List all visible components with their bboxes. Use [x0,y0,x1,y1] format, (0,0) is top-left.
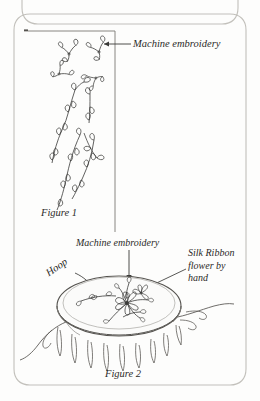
label-silk-ribbon-flower: Silk Ribbon flower by hand [188,247,234,285]
label-machine-embroidery-figure2: Machine embroidery [76,237,159,248]
label-silk-ribbon-line3: hand [188,272,234,285]
vine-trail [56,127,83,210]
arrow-left-icon [104,42,109,47]
page-canvas: Machine embroidery Figure 1 Machine embr… [0,0,260,401]
callout-machine-embroidery-top [104,42,131,47]
vine-sprig [81,70,106,92]
vine-trail [83,133,104,162]
fabric-swatch-outline [24,30,115,232]
vine-trail [84,87,95,123]
vine-sprig [47,58,74,84]
vine-sprig [56,37,78,63]
page-border-top-partial [22,0,238,24]
vine-sprig [86,36,108,62]
embroidery-hoop [57,276,181,336]
label-silk-ribbon-line2: flower by [188,260,234,273]
figure1-motifs [47,36,107,210]
illustration-svg [0,0,260,401]
caption-figure-2: Figure 2 [105,368,141,380]
label-machine-embroidery-figure1: Machine embroidery [133,38,220,50]
vine-trail [71,133,97,199]
caption-figure-1: Figure 1 [41,207,77,219]
label-silk-ribbon-line1: Silk Ribbon [188,247,234,260]
